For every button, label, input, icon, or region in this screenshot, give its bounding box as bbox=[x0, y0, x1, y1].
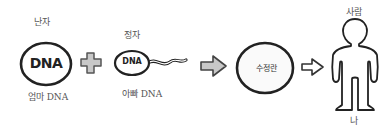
sperm-bottom-label: 아빠 DNA bbox=[112, 87, 172, 100]
zygote-text: 수정란 bbox=[244, 62, 288, 73]
egg-top-label: 난자 bbox=[27, 15, 57, 28]
sperm-top-label: 정자 bbox=[117, 28, 147, 41]
arrow-right-icon bbox=[300, 57, 326, 77]
egg-dna-text: DNA bbox=[25, 55, 67, 71]
egg-bottom-label: 엄마 DNA bbox=[18, 90, 78, 103]
plus-icon bbox=[79, 51, 103, 75]
arrow-right-icon bbox=[199, 54, 229, 78]
person-silhouette-icon bbox=[325, 17, 385, 113]
sperm-dna-text: DNA bbox=[117, 57, 147, 66]
person-bottom-label: 나 bbox=[334, 114, 374, 127]
